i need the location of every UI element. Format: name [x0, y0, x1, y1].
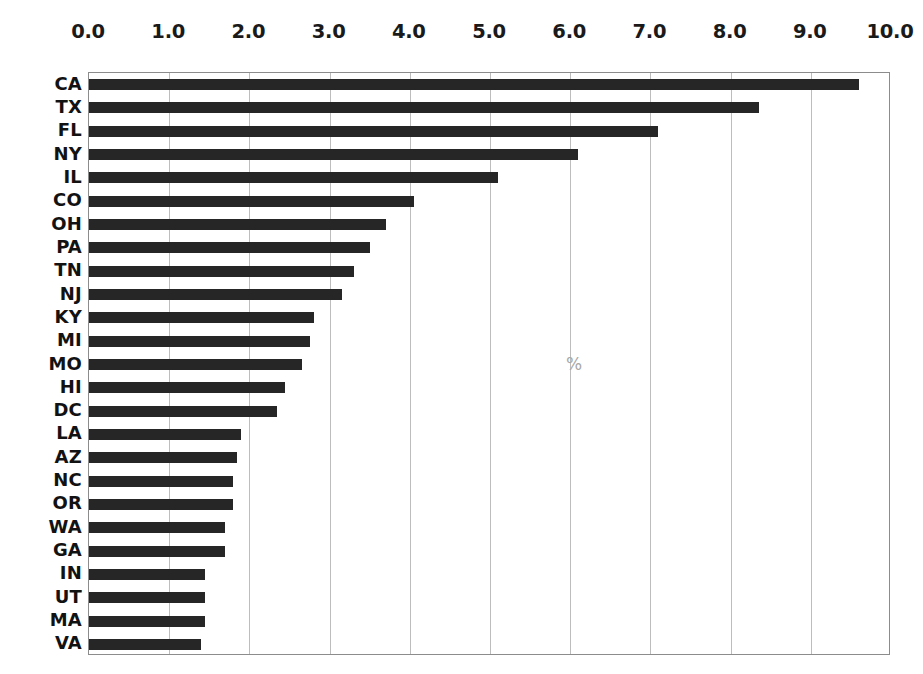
x-tick-label: 8.0: [713, 20, 747, 43]
bar: [89, 499, 233, 510]
y-tick-label: PA: [0, 236, 82, 257]
bar-row: [89, 330, 889, 353]
y-tick-label: MA: [0, 609, 82, 630]
bar: [89, 476, 233, 487]
bar: [89, 196, 414, 207]
y-tick-label: IL: [0, 166, 82, 187]
bar: [89, 382, 285, 393]
bar: [89, 312, 314, 323]
bar-row: [89, 213, 889, 236]
y-tick-label: OR: [0, 492, 82, 513]
y-axis-tick-labels: CATXFLNYILCOOHPATNNJKYMIMOHIDCLAAZNCORWA…: [0, 72, 82, 655]
x-tick-label: 9.0: [793, 20, 827, 43]
bar-row: [89, 446, 889, 469]
y-tick-label: OH: [0, 213, 82, 234]
bar: [89, 219, 386, 230]
bar: [89, 406, 277, 417]
y-tick-label: CA: [0, 73, 82, 94]
x-tick-label: 3.0: [312, 20, 346, 43]
bar: [89, 336, 310, 347]
bar: [89, 79, 859, 90]
x-tick-label: 1.0: [151, 20, 185, 43]
y-tick-label: FL: [0, 119, 82, 140]
bar: [89, 102, 759, 113]
bar: [89, 546, 225, 557]
bar-row: [89, 633, 889, 656]
bar-row: [89, 190, 889, 213]
y-tick-label: DC: [0, 399, 82, 420]
bar-row: [89, 73, 889, 96]
bar-row: [89, 516, 889, 539]
bar-row: [89, 539, 889, 562]
y-tick-label: NY: [0, 143, 82, 164]
x-tick-label: 5.0: [472, 20, 506, 43]
y-tick-label: NJ: [0, 283, 82, 304]
plot-area: %: [88, 72, 890, 655]
x-tick-label: 7.0: [633, 20, 667, 43]
bar: [89, 452, 237, 463]
y-tick-label: TN: [0, 259, 82, 280]
bars-layer: [89, 73, 889, 654]
y-tick-label: CO: [0, 189, 82, 210]
bar-row: [89, 423, 889, 446]
bar-row: [89, 260, 889, 283]
y-tick-label: VA: [0, 632, 82, 653]
bar: [89, 289, 342, 300]
bar-row: [89, 586, 889, 609]
y-tick-label: KY: [0, 306, 82, 327]
bar-row: [89, 236, 889, 259]
bar-row: [89, 143, 889, 166]
bar: [89, 429, 241, 440]
bar: [89, 149, 578, 160]
y-tick-label: MI: [0, 329, 82, 350]
bar-row: [89, 166, 889, 189]
bar-row: [89, 563, 889, 586]
bar: [89, 126, 658, 137]
bar-row: [89, 399, 889, 422]
y-tick-label: IN: [0, 562, 82, 583]
bar: [89, 616, 205, 627]
y-tick-label: LA: [0, 422, 82, 443]
y-tick-label: WA: [0, 516, 82, 537]
x-tick-label: 0.0: [71, 20, 105, 43]
bar: [89, 522, 225, 533]
bar: [89, 639, 201, 650]
bar: [89, 569, 205, 580]
figure-caption: ​: [18, 658, 438, 674]
bar-row: [89, 376, 889, 399]
x-tick-label: 10.0: [867, 20, 914, 43]
y-tick-label: MO: [0, 353, 82, 374]
bar: [89, 172, 498, 183]
bar-row: [89, 469, 889, 492]
x-axis-tick-labels: 0.01.02.03.04.05.06.07.08.09.010.0: [0, 20, 923, 60]
bar: [89, 242, 370, 253]
y-tick-label: NC: [0, 469, 82, 490]
y-tick-label: GA: [0, 539, 82, 560]
x-tick-label: 6.0: [552, 20, 586, 43]
y-tick-label: HI: [0, 376, 82, 397]
y-tick-label: AZ: [0, 446, 82, 467]
bar-row: [89, 96, 889, 119]
y-tick-label: TX: [0, 96, 82, 117]
bar: [89, 592, 205, 603]
bar-row: [89, 493, 889, 516]
bar-row: [89, 306, 889, 329]
bar-row: [89, 609, 889, 632]
bar-chart: 0.01.02.03.04.05.06.07.08.09.010.0 CATXF…: [0, 0, 923, 674]
bar-row: [89, 283, 889, 306]
x-tick-label: 4.0: [392, 20, 426, 43]
y-tick-label: UT: [0, 586, 82, 607]
bar-row: [89, 120, 889, 143]
x-axis-label: %: [566, 354, 582, 374]
bar: [89, 266, 354, 277]
x-tick-label: 2.0: [232, 20, 266, 43]
bar: [89, 359, 302, 370]
bar-row: [89, 353, 889, 376]
